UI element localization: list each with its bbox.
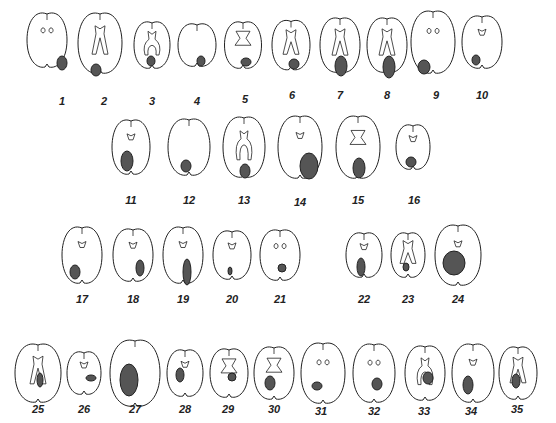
slice-number-label: 35 <box>502 403 532 415</box>
lesion-shading <box>512 374 520 388</box>
brain-slice-35 <box>0 0 556 423</box>
brain-outline <box>499 347 537 399</box>
brain-slice-figure: 1234567891011121314151617181920212223242… <box>0 0 556 423</box>
